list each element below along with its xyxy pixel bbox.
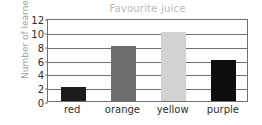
x-label-red: red bbox=[64, 104, 80, 115]
bar-orange bbox=[111, 46, 136, 101]
y-tick-label: 4 bbox=[38, 70, 44, 81]
y-tick-label: 10 bbox=[31, 28, 44, 39]
gridline bbox=[48, 48, 247, 49]
y-tick-mark bbox=[45, 89, 48, 90]
y-tick-mark bbox=[45, 33, 48, 34]
y-tick-mark bbox=[45, 47, 48, 48]
bar-chart: Favourite juice Number of learners 02468… bbox=[0, 0, 262, 125]
bar-purple bbox=[211, 60, 236, 102]
y-tick-mark bbox=[45, 20, 48, 21]
x-label-orange: orange bbox=[105, 104, 140, 115]
x-label-purple: purple bbox=[207, 104, 239, 115]
y-axis-title: Number of learners bbox=[20, 0, 30, 79]
y-tick-mark bbox=[45, 103, 48, 104]
plot-area: 024681012 bbox=[47, 19, 248, 102]
y-tick-mark bbox=[45, 75, 48, 76]
y-tick-label: 12 bbox=[31, 15, 44, 26]
y-tick-label: 6 bbox=[38, 56, 44, 67]
y-tick-mark bbox=[45, 61, 48, 62]
gridline bbox=[48, 34, 247, 35]
bar-yellow bbox=[161, 32, 186, 101]
x-label-yellow: yellow bbox=[157, 104, 189, 115]
chart-title: Favourite juice bbox=[47, 3, 248, 14]
y-tick-label: 8 bbox=[38, 42, 44, 53]
y-tick-label: 2 bbox=[38, 84, 44, 95]
bar-red bbox=[61, 87, 86, 101]
y-tick-label: 0 bbox=[38, 98, 44, 109]
